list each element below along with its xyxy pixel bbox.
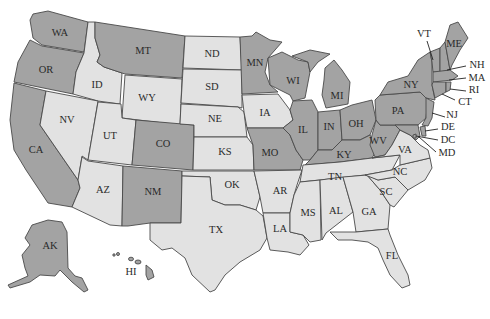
label-GA: GA xyxy=(361,206,377,217)
label-MS: MS xyxy=(300,207,315,218)
label-SC: SC xyxy=(380,186,393,197)
state-RI[interactable] xyxy=(446,82,451,92)
label-WI: WI xyxy=(286,75,300,86)
label-WA: WA xyxy=(52,27,69,38)
label-UT: UT xyxy=(103,130,118,141)
label-MN: MN xyxy=(247,57,264,68)
label-NC: NC xyxy=(393,166,408,177)
label-SD: SD xyxy=(205,81,219,92)
label-AL: AL xyxy=(329,205,343,216)
label-CO: CO xyxy=(156,138,171,149)
label-NH: NH xyxy=(469,59,485,70)
label-OR: OR xyxy=(39,64,54,75)
label-KS: KS xyxy=(218,146,232,157)
label-IN: IN xyxy=(323,121,334,132)
label-NV: NV xyxy=(59,114,75,125)
label-IL: IL xyxy=(298,124,308,135)
label-PA: PA xyxy=(392,105,405,116)
label-LA: LA xyxy=(273,223,287,234)
label-MT: MT xyxy=(135,45,151,56)
leader-DC xyxy=(416,136,438,140)
state-DC[interactable] xyxy=(413,134,416,138)
label-VA: VA xyxy=(398,144,412,155)
leader-CT xyxy=(442,94,455,100)
leader-DE xyxy=(425,129,438,131)
state-AK[interactable] xyxy=(8,220,88,292)
label-RI: RI xyxy=(469,84,480,95)
label-HI: HI xyxy=(125,266,137,277)
label-OH: OH xyxy=(348,118,364,129)
label-NE: NE xyxy=(208,113,222,124)
label-KY: KY xyxy=(336,149,352,160)
label-CA: CA xyxy=(29,144,44,155)
label-VT: VT xyxy=(417,28,432,39)
label-MD: MD xyxy=(439,147,456,158)
state-CT[interactable] xyxy=(432,82,446,98)
label-AR: AR xyxy=(273,185,288,196)
label-MI: MI xyxy=(331,90,344,101)
label-MO: MO xyxy=(262,147,279,158)
label-DC: DC xyxy=(441,134,456,145)
label-OK: OK xyxy=(224,179,240,190)
state-MA[interactable] xyxy=(433,70,458,82)
label-NM: NM xyxy=(145,186,163,197)
label-NY: NY xyxy=(403,79,419,90)
leader-RI xyxy=(450,89,466,91)
label-NJ: NJ xyxy=(446,109,458,120)
us-states-map: WA OR CA ID NV MT WY UT AZ CO NM ND SD N… xyxy=(0,0,490,319)
label-FL: FL xyxy=(386,250,398,261)
label-AZ: AZ xyxy=(96,184,110,195)
label-TX: TX xyxy=(209,224,223,235)
label-CT: CT xyxy=(458,96,472,107)
label-WY: WY xyxy=(138,92,156,103)
state-NY[interactable] xyxy=(380,52,435,100)
label-AK: AK xyxy=(42,240,58,251)
label-TN: TN xyxy=(328,171,342,182)
label-ND: ND xyxy=(204,48,220,59)
label-DE: DE xyxy=(441,121,455,132)
label-ME: ME xyxy=(446,38,462,49)
leader-NJ xyxy=(432,113,445,117)
label-ID: ID xyxy=(91,79,102,90)
label-WV: WV xyxy=(369,135,387,146)
label-MA: MA xyxy=(469,72,486,83)
label-IA: IA xyxy=(259,107,270,118)
